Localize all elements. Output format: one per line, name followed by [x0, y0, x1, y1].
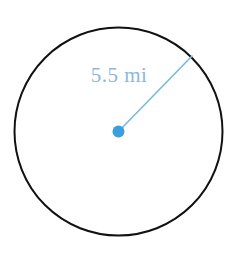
radius-label: 5.5 mi: [91, 63, 148, 87]
center-point-dot: [113, 126, 125, 138]
diagram-canvas: 5.5 mi: [0, 0, 236, 255]
circle-diagram-figure: 5.5 mi: [0, 0, 236, 255]
